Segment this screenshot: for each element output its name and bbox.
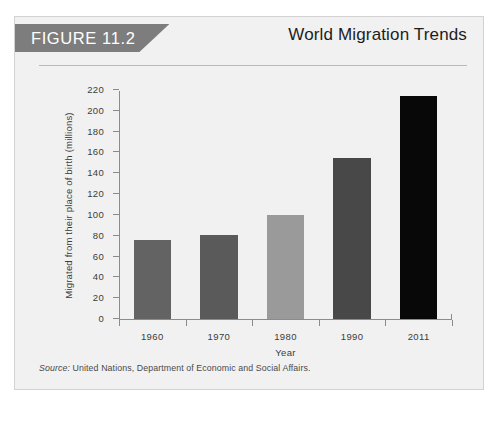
y-axis-tick-label: 200 [87, 104, 104, 115]
figure-number-label: FIGURE 11.2 [31, 29, 135, 48]
x-axis-line [119, 319, 452, 320]
x-axis-title: Year [119, 347, 452, 358]
y-axis-line [119, 91, 120, 320]
source-note: Source: United Nations, Department of Ec… [39, 363, 310, 373]
y-axis-tick-label: 60 [93, 250, 104, 261]
x-axis-label-1960: 1960 [141, 331, 164, 342]
y-axis-tick-label: 220 [87, 84, 104, 95]
x-axis-label-2011: 2011 [408, 331, 430, 342]
y-axis-tick-label: 140 [87, 167, 104, 178]
source-note-label: Source: [39, 363, 70, 373]
y-axis-title: Migrated from their place of birth (mill… [63, 91, 74, 320]
y-axis-tick-label: 20 [93, 292, 104, 303]
source-note-text: United Nations, Department of Economic a… [70, 363, 310, 373]
y-axis-tick: 200 [113, 110, 119, 111]
bar-1970 [200, 235, 237, 319]
bar-1960 [134, 240, 171, 319]
bar-2011 [400, 96, 437, 319]
bar-1980 [267, 215, 304, 319]
y-axis-tick: 140 [113, 172, 119, 173]
x-axis-label-1970: 1970 [208, 331, 231, 342]
x-axis-tick [119, 320, 120, 326]
chart-plot-area: 020406080100120140160180200220 196019701… [119, 85, 452, 320]
x-axis-label-1980: 1980 [274, 331, 297, 342]
y-axis-tick: 160 [113, 151, 119, 152]
y-axis-tick: 180 [113, 131, 119, 132]
figure-title: World Migration Trends [288, 25, 467, 45]
x-axis-tick [452, 320, 453, 326]
y-axis-tick: 80 [113, 235, 119, 236]
y-axis-tick: 0 [113, 318, 119, 319]
y-axis-tick-label: 80 [93, 229, 104, 240]
y-axis-tick-label: 0 [98, 313, 104, 324]
y-axis-tick: 100 [113, 214, 119, 215]
x-axis-label-1990: 1990 [341, 331, 364, 342]
figure-number-banner: FIGURE 11.2 [15, 24, 169, 52]
y-axis-tick: 120 [113, 193, 119, 194]
x-axis-tick [385, 320, 386, 326]
bar-1990 [333, 158, 370, 319]
x-axis-tick [252, 320, 253, 326]
y-axis-tick: 40 [113, 276, 119, 277]
y-axis-tick: 20 [113, 297, 119, 298]
y-axis-tick-label: 160 [87, 146, 104, 157]
x-axis-tick [186, 320, 187, 326]
header-divider [39, 65, 467, 66]
y-axis-tick-label: 180 [87, 125, 104, 136]
y-axis-tick: 60 [113, 256, 119, 257]
x-axis-tick [319, 320, 320, 326]
y-axis-tick: 220 [113, 89, 119, 90]
y-axis-tick-label: 100 [87, 208, 104, 219]
figure-card: FIGURE 11.2 World Migration Trends 02040… [14, 16, 484, 390]
y-axis-tick-label: 120 [87, 188, 104, 199]
y-axis-tick-label: 40 [93, 271, 104, 282]
